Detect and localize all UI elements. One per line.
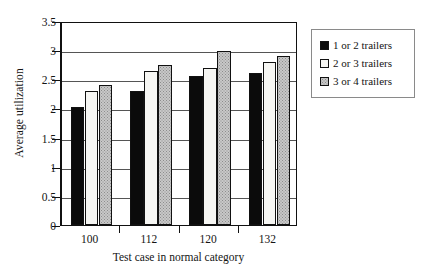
x-tick-mark bbox=[179, 226, 180, 233]
legend-swatch-icon bbox=[320, 41, 329, 50]
x-axis-tick-labels: 100112120132 bbox=[60, 233, 297, 249]
bar bbox=[99, 85, 113, 225]
legend-swatch-icon bbox=[320, 59, 329, 68]
bar-group bbox=[181, 23, 240, 225]
x-tick-label: 112 bbox=[119, 233, 178, 245]
bar bbox=[189, 76, 203, 225]
bar bbox=[71, 107, 85, 225]
bar bbox=[217, 51, 231, 225]
bar-group bbox=[240, 23, 299, 225]
x-tick-mark bbox=[119, 226, 120, 233]
y-tick-mark bbox=[52, 139, 60, 140]
y-tick-mark bbox=[52, 226, 60, 227]
y-tick-mark bbox=[52, 168, 60, 169]
x-tick-label: 120 bbox=[179, 233, 238, 245]
bar-group bbox=[62, 23, 121, 225]
bar bbox=[263, 62, 277, 225]
bar-group bbox=[121, 23, 180, 225]
chart-legend: 1 or 2 trailers2 or 3 trailers3 or 4 tra… bbox=[311, 29, 415, 98]
y-tick-mark bbox=[52, 51, 60, 52]
bar-chart-figure: Average utilization 00.511.522.533.5 100… bbox=[0, 0, 421, 279]
x-tick-label: 132 bbox=[238, 233, 297, 245]
legend-swatch-icon bbox=[320, 77, 329, 86]
y-tick-mark bbox=[52, 197, 60, 198]
bar bbox=[130, 91, 144, 225]
bar bbox=[158, 65, 172, 225]
legend-label: 2 or 3 trailers bbox=[333, 58, 392, 69]
y-tick-mark bbox=[52, 109, 60, 110]
legend-label: 3 or 4 trailers bbox=[333, 76, 392, 87]
legend-item[interactable]: 1 or 2 trailers bbox=[320, 37, 408, 54]
x-tick-label: 100 bbox=[60, 233, 119, 245]
legend-item[interactable]: 3 or 4 trailers bbox=[320, 73, 408, 90]
plot-area bbox=[60, 22, 297, 226]
bar bbox=[249, 73, 263, 225]
x-axis-label: Test case in normal category bbox=[60, 251, 297, 263]
bar-groups bbox=[62, 23, 296, 225]
y-tick-mark bbox=[52, 80, 60, 81]
bar bbox=[203, 68, 217, 225]
bar bbox=[144, 71, 158, 225]
legend-label: 1 or 2 trailers bbox=[333, 40, 392, 51]
legend-item[interactable]: 2 or 3 trailers bbox=[320, 55, 408, 72]
y-tick-mark bbox=[52, 22, 60, 23]
x-tick-mark bbox=[238, 226, 239, 233]
bar bbox=[85, 91, 99, 225]
bar bbox=[277, 56, 291, 225]
